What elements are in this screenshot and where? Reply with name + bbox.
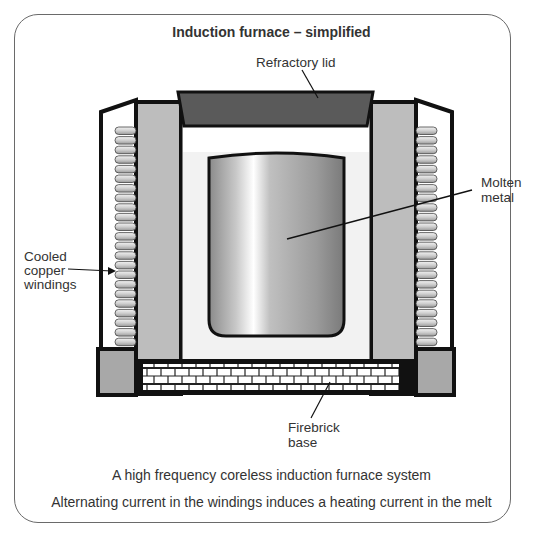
lid-label: Refractory lid — [256, 55, 336, 70]
left-copper-windings — [115, 127, 136, 346]
windings-label-3: windings — [24, 277, 77, 292]
copper-winding-turn — [115, 146, 136, 154]
caption-line-2: Alternating current in the windings indu… — [0, 494, 543, 510]
copper-winding-turn — [115, 329, 136, 337]
windings-label-1: Cooled — [24, 249, 67, 264]
copper-winding-turn — [115, 242, 136, 250]
copper-winding-turn — [416, 233, 437, 241]
base-label-1: Firebrick — [288, 420, 340, 435]
copper-winding-turn — [416, 338, 437, 346]
copper-winding-turn — [416, 213, 437, 221]
copper-winding-turn — [115, 338, 136, 346]
copper-winding-turn — [115, 137, 136, 145]
copper-winding-turn — [115, 300, 136, 308]
firebrick-base — [143, 364, 399, 390]
copper-winding-turn — [416, 252, 437, 259]
copper-winding-turn — [115, 281, 136, 289]
copper-winding-turn — [115, 223, 136, 231]
right-base-block — [416, 349, 454, 395]
copper-winding-turn — [115, 204, 136, 212]
windings-label-2: copper — [24, 263, 65, 278]
copper-winding-turn — [416, 319, 437, 327]
right-copper-windings — [416, 127, 437, 346]
copper-winding-turn — [115, 271, 136, 279]
molten-label-1: Molten — [481, 175, 522, 190]
copper-winding-turn — [115, 290, 136, 298]
copper-winding-turn — [416, 290, 437, 298]
copper-winding-turn — [115, 319, 136, 327]
copper-winding-turn — [115, 127, 136, 135]
right-refractory-wall — [371, 102, 416, 394]
copper-winding-turn — [416, 137, 437, 145]
copper-winding-turn — [416, 281, 437, 289]
left-base-block — [98, 349, 136, 395]
copper-winding-turn — [416, 329, 437, 337]
copper-winding-turn — [115, 175, 136, 183]
molten-label-2: metal — [481, 190, 514, 205]
copper-winding-turn — [416, 223, 437, 231]
copper-winding-turn — [115, 165, 136, 173]
copper-winding-turn — [416, 242, 437, 250]
copper-winding-turn — [416, 309, 437, 317]
copper-winding-turn — [416, 127, 437, 135]
copper-winding-turn — [115, 194, 136, 202]
caption-line-1: A high frequency coreless induction furn… — [0, 467, 543, 483]
copper-winding-turn — [416, 185, 437, 193]
copper-winding-turn — [115, 233, 136, 241]
copper-winding-turn — [416, 156, 437, 164]
copper-winding-turn — [115, 252, 136, 259]
copper-winding-turn — [416, 300, 437, 308]
copper-winding-turn — [115, 213, 136, 221]
left-refractory-wall — [136, 102, 181, 394]
molten-metal — [209, 153, 344, 336]
copper-winding-turn — [416, 204, 437, 212]
refractory-lid — [178, 92, 373, 126]
copper-winding-turn — [416, 261, 437, 269]
copper-winding-turn — [416, 175, 437, 183]
copper-winding-turn — [115, 156, 136, 164]
copper-winding-turn — [115, 309, 136, 317]
crucible-space — [183, 126, 369, 152]
copper-winding-turn — [416, 165, 437, 173]
copper-winding-turn — [115, 185, 136, 193]
copper-winding-turn — [115, 261, 136, 269]
furnace-diagram — [0, 0, 543, 541]
base-label-2: base — [288, 435, 317, 450]
copper-winding-turn — [416, 146, 437, 154]
copper-winding-turn — [416, 271, 437, 279]
